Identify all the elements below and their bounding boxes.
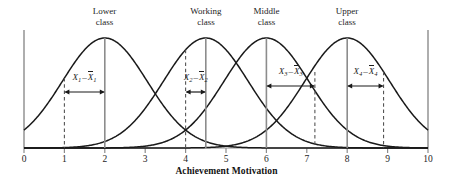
- deviation-label-4: X4–X4: [353, 66, 377, 77]
- x-tick-label-9: 9: [380, 154, 396, 164]
- deviation-label-2: X2–X2: [184, 72, 208, 83]
- deviation-scores-figure: 012345678910Achievement MotivationX1–X1L…: [0, 0, 453, 185]
- x-axis-title: Achievement Motivation: [0, 166, 453, 176]
- deviation-label-3: X3–X3: [279, 66, 303, 77]
- x-tick-label-10: 10: [420, 154, 436, 164]
- x-tick-label-6: 6: [258, 154, 274, 164]
- group-label-line2: class: [96, 17, 114, 27]
- x-tick-label-2: 2: [97, 154, 113, 164]
- normal-curve-4: [24, 38, 428, 148]
- arrow-head-left-1: [64, 89, 69, 94]
- normal-curve-2: [24, 38, 428, 148]
- x-tick-label-3: 3: [137, 154, 153, 164]
- group-label-line1: Lower: [93, 6, 117, 16]
- x-tick-label-1: 1: [56, 154, 72, 164]
- group-label-line1: Middle: [253, 6, 279, 16]
- group-label-line1: Working: [190, 6, 221, 16]
- x-tick-label-8: 8: [339, 154, 355, 164]
- group-label-line2: class: [258, 17, 276, 27]
- group-label-line2: class: [197, 17, 215, 27]
- group-label-4: Upperclass: [336, 6, 359, 27]
- group-label-3: Middleclass: [253, 6, 279, 27]
- x-tick-label-7: 7: [299, 154, 315, 164]
- arrow-head-right-4: [379, 83, 384, 88]
- group-label-1: Lowerclass: [93, 6, 117, 27]
- normal-curve-3: [24, 38, 428, 148]
- x-tick-label-4: 4: [178, 154, 194, 164]
- deviation-label-1: X1–X1: [73, 72, 97, 83]
- arrow-head-left-2: [186, 89, 191, 94]
- x-tick-label-0: 0: [16, 154, 32, 164]
- group-label-line2: class: [338, 17, 356, 27]
- x-tick-label-5: 5: [218, 154, 234, 164]
- group-label-2: Workingclass: [190, 6, 221, 27]
- group-label-line1: Upper: [336, 6, 359, 16]
- normal-curve-1: [24, 38, 428, 148]
